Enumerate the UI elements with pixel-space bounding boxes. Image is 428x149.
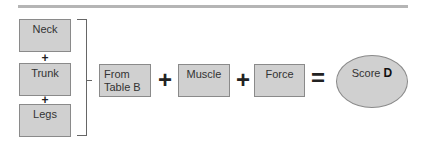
top-divider [18,5,408,8]
neck-box: Neck [19,19,71,52]
score-d-ellipse: Score D [336,55,408,108]
from-table-b-box: From Table B [99,64,151,97]
force-box: Force [254,64,305,97]
equals-operator: = [311,66,325,90]
score-letter: D [384,66,393,80]
trunk-box: Trunk [19,63,71,96]
bracket-bottom [77,135,86,136]
trunk-label: Trunk [20,64,70,79]
bracket-top [77,19,86,20]
bracket-pointer [86,80,92,81]
score-label: Score [352,67,381,79]
legs-label: Legs [20,105,70,120]
table-b-label: Table B [104,81,150,94]
from-label: From [104,68,150,81]
legs-box: Legs [19,104,71,137]
plus-operator: + [236,68,250,92]
grouping-bracket [77,19,87,136]
muscle-label: Muscle [179,65,229,80]
force-label: Force [255,65,304,80]
plus-operator: + [158,68,172,92]
neck-label: Neck [20,20,70,35]
muscle-box: Muscle [178,64,230,97]
